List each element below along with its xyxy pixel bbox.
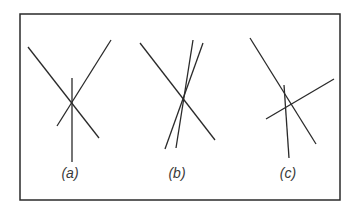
line xyxy=(140,43,215,140)
panel-label-a: (a) xyxy=(61,165,78,181)
line xyxy=(57,40,111,126)
line xyxy=(28,47,99,138)
line xyxy=(250,38,316,144)
panel-c: (c) xyxy=(250,38,334,181)
panel-a: (a) xyxy=(28,40,111,181)
concurrency-diagram: (a) (b) (c) xyxy=(0,0,360,206)
panel-label-b: (b) xyxy=(168,165,185,181)
line xyxy=(165,43,203,149)
panel-label-c: (c) xyxy=(280,165,296,181)
panel-b: (b) xyxy=(140,40,215,181)
line xyxy=(266,79,334,119)
